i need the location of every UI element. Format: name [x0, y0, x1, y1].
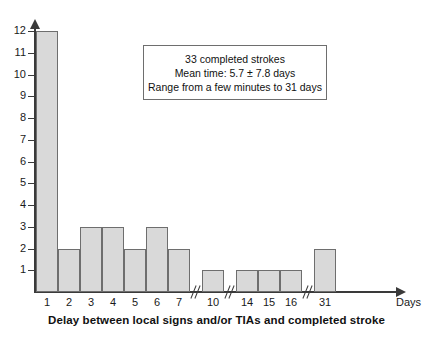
y-tick-label: 6	[0, 156, 26, 167]
y-tick	[28, 270, 35, 271]
annotation-box: 33 completed strokes Mean time: 5.7 ± 7.…	[143, 45, 327, 100]
y-tick-label: 7	[0, 134, 26, 145]
bar	[146, 227, 168, 292]
y-tick	[28, 249, 35, 250]
y-tick	[28, 53, 35, 54]
axis-break-icon	[190, 284, 202, 300]
bar	[124, 249, 146, 293]
y-tick	[28, 227, 35, 228]
y-tick	[28, 31, 35, 32]
chart-figure: 123456789101112 12345671014151631 Days D…	[0, 0, 433, 344]
bar	[202, 270, 224, 292]
y-axis-arrow-icon	[30, 19, 40, 29]
y-tick	[28, 118, 35, 119]
y-tick-label: 10	[0, 69, 26, 80]
bar	[314, 249, 336, 293]
bar	[58, 249, 80, 293]
annotation-line-2: Mean time: 5.7 ± 7.8 days	[175, 66, 296, 80]
bar	[36, 31, 58, 292]
bar	[80, 227, 102, 292]
bar	[102, 227, 124, 292]
annotation-line-3: Range from a few minutes to 31 days	[148, 80, 322, 94]
y-tick-label: 5	[0, 177, 26, 188]
y-tick-label: 4	[0, 199, 26, 210]
bar	[280, 270, 302, 292]
y-tick	[28, 205, 35, 206]
x-axis-unit-label: Days	[396, 296, 421, 308]
y-tick	[28, 96, 35, 97]
y-tick-label: 12	[0, 25, 26, 36]
y-tick-label: 11	[0, 47, 26, 58]
y-tick	[28, 183, 35, 184]
y-tick-label: 9	[0, 90, 26, 101]
x-axis-caption: Delay between local signs and/or TIAs an…	[0, 314, 433, 326]
axis-break-icon	[224, 284, 236, 300]
y-tick-label: 2	[0, 243, 26, 254]
bar	[168, 249, 190, 293]
y-tick	[28, 75, 35, 76]
y-tick	[28, 140, 35, 141]
annotation-line-1: 33 completed strokes	[185, 52, 285, 66]
y-tick-label: 3	[0, 221, 26, 232]
y-tick	[28, 162, 35, 163]
bar	[258, 270, 280, 292]
y-tick-label: 8	[0, 112, 26, 123]
x-tick-label: 31	[310, 296, 340, 308]
y-tick-label: 1	[0, 264, 26, 275]
axis-break-icon	[302, 284, 314, 300]
bar	[236, 270, 258, 292]
